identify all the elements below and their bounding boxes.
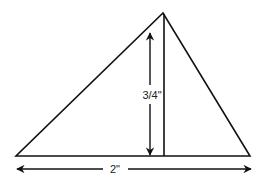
triangle-diagram: 3/4" 2" — [0, 0, 261, 181]
triangle-outline — [16, 13, 250, 156]
base-label: 2" — [110, 163, 120, 175]
height-label: 3/4" — [142, 89, 161, 101]
